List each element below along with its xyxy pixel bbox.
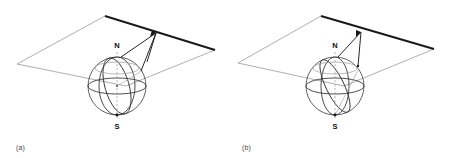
figure-panel-a: N S (a) (0, 0, 226, 158)
panel-caption-b: (b) (242, 144, 251, 151)
figure-panel-b: N S (b) (226, 0, 452, 158)
north-pole-label: N (114, 41, 119, 50)
panel-caption-a: (a) (16, 144, 25, 151)
stereographic-diagram-b: N S (226, 0, 452, 158)
sphere-center-dot (116, 85, 118, 87)
south-pole-dot (116, 114, 119, 117)
center-to-surface-chord (335, 70, 358, 115)
south-pole-label: S (114, 122, 119, 131)
ray-to-north-pole (338, 32, 361, 57)
south-pole-dot (334, 114, 337, 117)
plane-edge-top-left-thin (238, 16, 321, 63)
ray-to-north-pole (121, 33, 156, 57)
plane-edge-top-right-thick (105, 16, 215, 50)
ray-secondary (147, 33, 156, 62)
north-pole-label: N (332, 41, 337, 50)
surface-point-dot (357, 65, 359, 67)
ray-to-sphere-surface (358, 32, 361, 66)
plane-edge-bottom-left-thin (17, 64, 126, 86)
plane-edge-top-right-thick (321, 16, 434, 49)
plane-edge-bottom-left-thin (238, 63, 344, 86)
south-pole-label: S (332, 122, 337, 131)
figure-row: N S (a) (0, 0, 452, 158)
stereographic-diagram-a: N S (0, 0, 226, 158)
